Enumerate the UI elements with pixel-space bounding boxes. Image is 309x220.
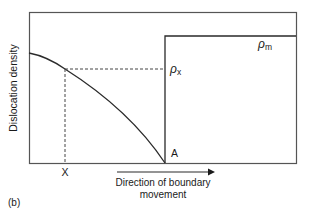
- panel-label: (b): [8, 197, 20, 208]
- y-axis-label: Dislocation density: [7, 43, 19, 131]
- rho-x-label: ρx: [169, 62, 182, 77]
- dislocation-density-diagram: Dislocation density ρx ρm A X Direction …: [0, 0, 309, 220]
- step-profile-line: [165, 36, 296, 163]
- x-axis-label-line2: movement: [140, 189, 187, 200]
- point-x-label: X: [61, 166, 68, 178]
- x-axis-label-line1: Direction of boundary: [115, 177, 210, 188]
- point-a-label: A: [171, 147, 178, 159]
- direction-arrow-head-icon: [208, 169, 215, 176]
- rho-m-label: ρm: [257, 37, 272, 52]
- plot-frame: [30, 13, 297, 164]
